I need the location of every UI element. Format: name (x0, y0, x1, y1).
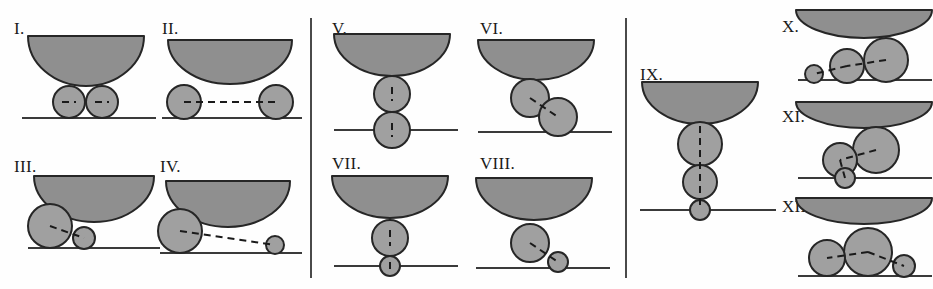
inscribed-circle (683, 165, 717, 199)
bowl-shape (796, 102, 932, 128)
configuration-diagram (330, 172, 465, 272)
configuration-diagram (16, 30, 156, 130)
bowl-shape (168, 40, 292, 84)
configuration-diagram (330, 30, 465, 140)
configuration-label: IV. (160, 158, 181, 175)
bowl-shape (334, 34, 450, 76)
bowl-shape (478, 40, 594, 80)
bowl-shape (476, 178, 592, 220)
figure-root: I.II.III.IV.V.VI.VII.VIII.IX.X.XI.XII. (0, 0, 933, 289)
divider-2 (625, 18, 627, 278)
bowl-shape (642, 82, 758, 124)
bowl-shape (28, 36, 144, 86)
bowl-shape (796, 198, 932, 224)
configuration-diagram (476, 174, 618, 274)
configuration-diagram (790, 100, 932, 188)
configuration-label: VII. (332, 155, 361, 172)
configuration-diagram (790, 8, 932, 93)
configuration-diagram (158, 34, 303, 134)
configuration-label: VI. (480, 20, 503, 37)
configuration-diagram (790, 196, 932, 284)
configuration-diagram (638, 78, 783, 238)
configuration-diagram (20, 170, 160, 270)
divider-1 (310, 18, 312, 278)
bowl-shape (796, 10, 932, 38)
configuration-diagram (158, 175, 303, 275)
configuration-label: VIII. (480, 155, 515, 172)
configuration-diagram (478, 36, 618, 146)
inscribed-circle (372, 220, 408, 256)
bowl-shape (332, 176, 448, 218)
